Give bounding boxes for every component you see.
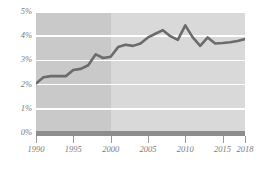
y-tick-label-2pct: 2%	[0, 80, 32, 89]
axis-baseline	[36, 131, 245, 136]
x-tick-2015	[223, 136, 224, 143]
y-tick-label-0pct: 0%	[0, 128, 32, 137]
x-tick-label-2000: 2000	[102, 145, 119, 154]
y-tick-label-1pct: 1%	[0, 104, 32, 113]
x-tick-2000	[111, 136, 112, 143]
y-tick-label-4pct: 4%	[0, 31, 32, 40]
x-tick-2018	[245, 136, 246, 143]
x-tick-label-2018: 2018	[237, 145, 254, 154]
y-axis: 0%1%2%3%4%5%	[0, 0, 34, 170]
x-tick-label-2015: 2015	[214, 145, 231, 154]
x-tick-label-2005: 2005	[139, 145, 156, 154]
x-tick-label-1995: 1995	[65, 145, 82, 154]
x-tick-2005	[148, 136, 149, 143]
x-tick-1990	[36, 136, 37, 143]
x-tick-label-2010: 2010	[177, 145, 194, 154]
plot-area	[36, 12, 245, 133]
y-tick-label-5pct: 5%	[0, 7, 32, 16]
line-chart: 0%1%2%3%4%5% 199019952000200520102015201…	[0, 0, 260, 170]
series-line-series-1	[36, 12, 245, 133]
x-tick-1995	[73, 136, 74, 143]
y-tick-label-3pct: 3%	[0, 55, 32, 64]
x-tick-2010	[185, 136, 186, 143]
